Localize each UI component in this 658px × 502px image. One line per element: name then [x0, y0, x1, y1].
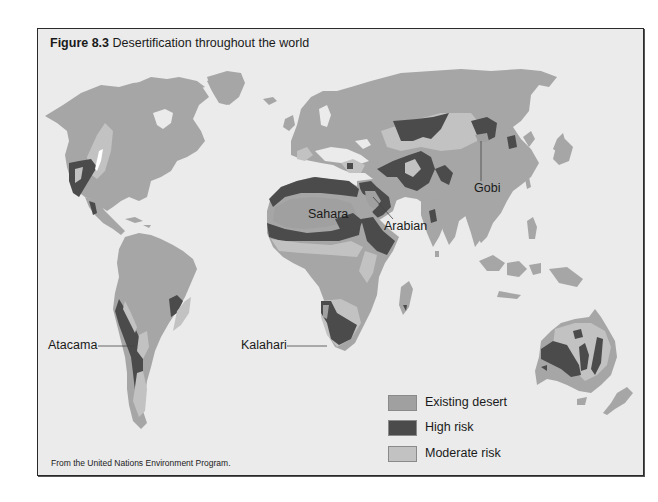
legend-label: Moderate risk	[425, 446, 501, 460]
south-america	[113, 233, 197, 429]
source-credit: From the United Nations Environment Prog…	[51, 458, 231, 468]
moderate-risk-swatch	[388, 446, 417, 462]
label-atacama: Atacama	[48, 338, 97, 352]
australia	[535, 309, 633, 415]
existing-desert-swatch	[388, 395, 417, 411]
north-america	[45, 75, 243, 235]
label-kalahari: Kalahari	[241, 338, 287, 352]
maritime-southeast-asia	[479, 217, 583, 299]
iceland	[263, 97, 277, 105]
label-gobi: Gobi	[474, 181, 500, 195]
label-arabian: Arabian	[384, 219, 427, 233]
legend-label: Existing desert	[425, 395, 507, 409]
figure-frame: Figure 8.3 Desertification throughout th…	[37, 28, 644, 476]
label-sahara: Sahara	[308, 207, 348, 221]
world-desertification-map	[38, 29, 643, 475]
high-risk-swatch	[388, 420, 417, 436]
legend-label: High risk	[425, 420, 474, 434]
greenland	[207, 71, 245, 105]
